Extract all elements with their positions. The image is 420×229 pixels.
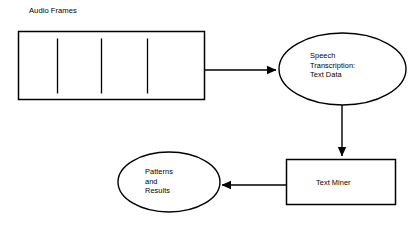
audio-frames-label: Audio Frames: [29, 6, 77, 16]
patterns-results-label: Patterns and Results: [145, 167, 173, 196]
speech-transcription-label: Speech Transcription: Text Data: [310, 51, 355, 80]
patterns-label-line-1: Patterns: [145, 167, 173, 176]
speech-label-line-2: Transcription:: [310, 61, 355, 70]
speech-label-line-3: Text Data: [310, 70, 342, 79]
speech-label-line-1: Speech: [310, 51, 335, 60]
patterns-label-line-3: Results: [145, 186, 170, 195]
text-miner-label: Text Miner: [316, 178, 351, 188]
flowchart-canvas: [0, 0, 420, 229]
audio-frames-box: [19, 32, 205, 100]
patterns-label-line-2: and: [145, 177, 157, 186]
